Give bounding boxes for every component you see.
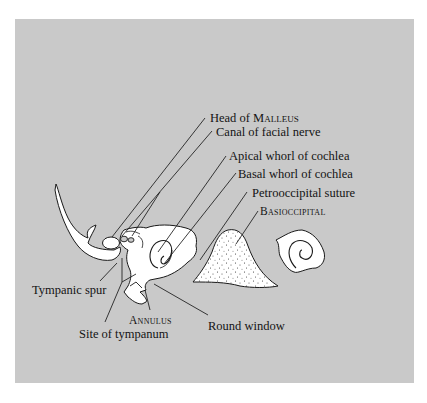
basioccipital-bone (193, 230, 278, 288)
label-canal-facial-nerve: Canal of facial nerve (216, 126, 320, 139)
label-site-of-tympanum: Site of tympanum (79, 328, 169, 341)
label-smallcaps: Malleus (253, 111, 299, 125)
label-apical-whorl: Apical whorl of cochlea (229, 150, 349, 163)
label-round-window: Round window (208, 320, 285, 333)
label-head-of-malleus: Head of Malleus (210, 112, 299, 125)
label-text: Head of (210, 111, 253, 125)
label-basioccipital: Basioccipital (260, 206, 326, 218)
label-basal-whorl: Basal whorl of cochlea (238, 168, 353, 181)
malleus-head-shape (103, 237, 120, 249)
ear-cross-section-diagram (0, 0, 427, 403)
label-tympanic-spur: Tympanic spur (32, 284, 106, 297)
label-annulus: Annulus (129, 315, 172, 327)
contralateral-cochlea (276, 230, 325, 272)
label-petrooccipital-suture: Petrooccipital suture (252, 187, 355, 200)
